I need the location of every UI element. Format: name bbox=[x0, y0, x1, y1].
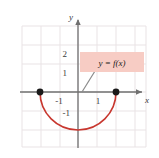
y-tick-1: 1 bbox=[63, 68, 68, 78]
y-axis-arrow bbox=[75, 19, 80, 25]
y-tick-neg1: -1 bbox=[63, 108, 71, 118]
x-tick-neg1: -1 bbox=[55, 96, 63, 106]
y-tick-2: 2 bbox=[63, 49, 68, 59]
callout-label: y = f(x) bbox=[97, 58, 125, 68]
callout-leader-line bbox=[82, 71, 95, 92]
graph-figure: y x 2 1 -1 -1 1 y = f(x) bbox=[0, 0, 159, 158]
y-axis-label: y bbox=[68, 12, 73, 22]
x-axis-arrow bbox=[136, 89, 142, 94]
endpoint-dot-left bbox=[37, 89, 44, 96]
x-axis-label: x bbox=[144, 95, 149, 105]
x-tick-1: 1 bbox=[96, 96, 101, 106]
axis-lines bbox=[20, 20, 142, 148]
graph-canvas: y x 2 1 -1 -1 1 y = f(x) bbox=[0, 0, 159, 158]
endpoint-dot-right bbox=[113, 89, 120, 96]
